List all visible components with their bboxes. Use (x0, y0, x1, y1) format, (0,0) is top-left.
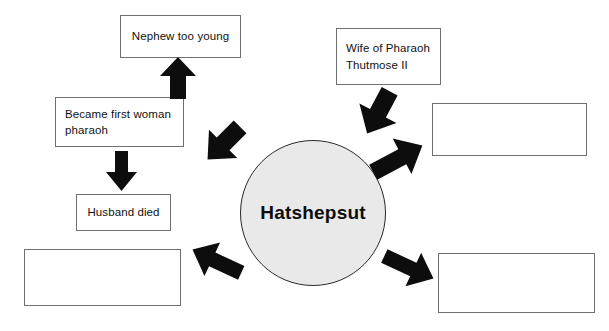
node-blank-bottom-right[interactable] (438, 253, 595, 313)
node-blank-right[interactable] (432, 103, 587, 156)
arrow-up-to-nephew-icon (160, 57, 196, 99)
node-became-first-woman-pharaoh[interactable]: Became first woman pharaoh (55, 97, 184, 147)
arrow-center-to-blank-bottom-left-icon (186, 234, 248, 288)
node-label: Nephew too young (132, 28, 230, 45)
arrow-center-to-became-pharaoh-icon (190, 116, 252, 176)
arrow-down-to-husband-died-icon (106, 151, 137, 191)
node-wife-of-pharaoh-thutmose-ii[interactable]: Wife of Pharaoh Thutmose II (336, 28, 441, 85)
node-husband-died[interactable]: Husband died (76, 194, 171, 231)
arrow-center-to-blank-right-icon (358, 130, 432, 190)
node-label: Wife of Pharaoh Thutmose II (346, 40, 430, 73)
node-blank-bottom-left[interactable] (24, 249, 181, 306)
arrow-center-to-blank-bottom-right-icon (378, 240, 440, 294)
diagram-canvas: Nephew too young Became first woman phar… (0, 0, 609, 331)
node-nephew-too-young[interactable]: Nephew too young (120, 15, 241, 58)
center-node-label: Hatshepsut (260, 202, 365, 224)
node-label: Became first woman pharaoh (65, 106, 171, 139)
node-label: Husband died (87, 204, 159, 221)
